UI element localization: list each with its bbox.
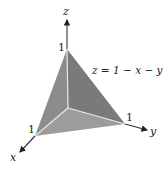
z-intercept-label: 1 bbox=[58, 42, 65, 53]
plane-equation-label: z = 1 − x − y bbox=[92, 65, 163, 76]
z-axis-label: z bbox=[63, 6, 69, 17]
x-axis bbox=[20, 136, 35, 152]
x-intercept-label: 1 bbox=[28, 124, 35, 135]
y-intercept-label: 1 bbox=[126, 112, 133, 123]
diagram-graphics bbox=[0, 0, 167, 169]
x-axis-label: x bbox=[10, 152, 16, 163]
plane-tetrahedron-diagram: z x y 1 1 1 z = 1 − x − y bbox=[0, 0, 167, 169]
y-axis-label: y bbox=[150, 126, 156, 137]
plane-surface bbox=[35, 49, 125, 136]
y-axis bbox=[125, 124, 147, 130]
